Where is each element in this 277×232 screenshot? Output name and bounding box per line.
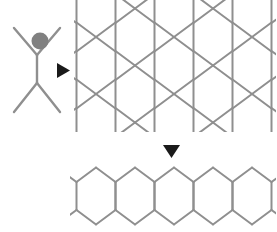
hexagonal-strip-1d bbox=[0, 0, 276, 232]
lattice-edge bbox=[77, 210, 97, 225]
lattice-edge bbox=[174, 168, 194, 183]
lattice-edge bbox=[213, 210, 233, 225]
lattice-edge bbox=[65, 174, 76, 182]
lattice-edge bbox=[155, 210, 175, 225]
lattice-edge bbox=[77, 168, 97, 183]
lattice-edge bbox=[135, 168, 155, 183]
lattice-edge bbox=[272, 210, 277, 218]
lattice-edge bbox=[233, 210, 253, 225]
lattice-edge bbox=[116, 210, 136, 225]
lattice-edge bbox=[116, 168, 136, 183]
lattice-edge bbox=[174, 210, 194, 225]
lattice-edge bbox=[233, 168, 253, 183]
lattice-edge bbox=[135, 210, 155, 225]
lattice-edge bbox=[272, 174, 277, 182]
strip-edges bbox=[65, 168, 276, 225]
lattice-edge bbox=[194, 210, 214, 225]
lattice-edge bbox=[155, 168, 175, 183]
lattice-edge bbox=[96, 168, 116, 183]
lattice-edge bbox=[194, 168, 214, 183]
lattice-edge bbox=[252, 210, 272, 225]
lattice-edge bbox=[213, 168, 233, 183]
figure-root: Monomer self-assembly into hexagonal lat… bbox=[0, 0, 276, 232]
lattice-edge bbox=[96, 210, 116, 225]
lattice-edge bbox=[252, 168, 272, 183]
lattice-edge bbox=[65, 210, 76, 218]
